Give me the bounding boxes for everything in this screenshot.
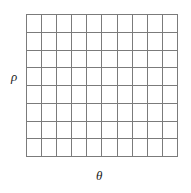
grid-cell [87, 86, 102, 104]
grid-cell [162, 32, 177, 50]
grid-cell [87, 139, 102, 157]
grid-cell [147, 15, 162, 33]
grid-cell [147, 103, 162, 121]
grid-cell [102, 139, 117, 157]
grid-cell [132, 68, 147, 86]
grid-cell [102, 32, 117, 50]
grid-mesh [26, 14, 178, 157]
grid-cell [147, 121, 162, 139]
grid-cell [117, 121, 132, 139]
grid-cell [72, 15, 87, 33]
grid-cell [117, 32, 132, 50]
grid-cell [72, 86, 87, 104]
grid-row [27, 121, 178, 139]
grid-row [27, 50, 178, 68]
grid-cell [57, 86, 72, 104]
grid-cell [57, 121, 72, 139]
y-axis-label-rho: ρ [11, 70, 17, 83]
grid-cell [42, 50, 57, 68]
grid-cell [147, 86, 162, 104]
grid-row [27, 68, 178, 86]
grid-cell [87, 15, 102, 33]
grid-cell [132, 50, 147, 68]
grid-cell [72, 139, 87, 157]
grid-row [27, 86, 178, 104]
grid-cell [147, 139, 162, 157]
grid-cell [162, 121, 177, 139]
grid-cell [117, 86, 132, 104]
grid-cell [87, 50, 102, 68]
grid-body [27, 15, 178, 157]
grid-cell [102, 50, 117, 68]
grid-plot-area [26, 14, 178, 157]
grid-cell [27, 139, 42, 157]
grid-cell [132, 139, 147, 157]
grid-cell [42, 68, 57, 86]
grid-cell [27, 86, 42, 104]
grid-cell [42, 15, 57, 33]
grid-cell [57, 32, 72, 50]
grid-cell [27, 50, 42, 68]
grid-cell [117, 68, 132, 86]
grid-cell [102, 68, 117, 86]
parameter-space-grid-figure: ρ θ [0, 0, 191, 193]
grid-cell [117, 50, 132, 68]
grid-row [27, 139, 178, 157]
grid-cell [162, 15, 177, 33]
grid-cell [162, 50, 177, 68]
grid-cell [57, 68, 72, 86]
grid-cell [87, 32, 102, 50]
grid-cell [132, 121, 147, 139]
grid-cell [27, 15, 42, 33]
grid-cell [57, 139, 72, 157]
grid-cell [147, 50, 162, 68]
grid-cell [57, 103, 72, 121]
grid-cell [27, 103, 42, 121]
grid-cell [42, 121, 57, 139]
grid-cell [72, 50, 87, 68]
grid-row [27, 103, 178, 121]
grid-cell [117, 15, 132, 33]
grid-cell [102, 103, 117, 121]
grid-cell [147, 68, 162, 86]
grid-cell [147, 32, 162, 50]
grid-cell [72, 121, 87, 139]
grid-cell [42, 103, 57, 121]
grid-cell [42, 32, 57, 50]
grid-cell [162, 86, 177, 104]
grid-cell [72, 103, 87, 121]
grid-cell [87, 68, 102, 86]
grid-cell [27, 68, 42, 86]
grid-cell [132, 32, 147, 50]
grid-row [27, 15, 178, 33]
grid-cell [162, 68, 177, 86]
grid-cell [132, 103, 147, 121]
grid-cell [102, 121, 117, 139]
grid-cell [72, 32, 87, 50]
grid-cell [162, 103, 177, 121]
grid-cell [162, 139, 177, 157]
grid-cell [42, 139, 57, 157]
grid-cell [132, 86, 147, 104]
grid-cell [27, 121, 42, 139]
grid-cell [117, 103, 132, 121]
grid-cell [57, 15, 72, 33]
x-axis-label-theta: θ [96, 169, 102, 182]
grid-row [27, 32, 178, 50]
grid-cell [102, 86, 117, 104]
grid-cell [27, 32, 42, 50]
grid-cell [42, 86, 57, 104]
grid-cell [117, 139, 132, 157]
grid-cell [102, 15, 117, 33]
grid-cell [87, 121, 102, 139]
grid-cell [72, 68, 87, 86]
grid-cell [87, 103, 102, 121]
grid-cell [132, 15, 147, 33]
grid-cell [57, 50, 72, 68]
